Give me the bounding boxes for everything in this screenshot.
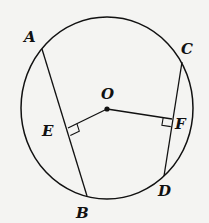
geometry-diagram: A B C D E F O — [0, 0, 209, 223]
segment-of — [107, 109, 172, 119]
label-b: B — [75, 204, 89, 222]
label-o: O — [101, 85, 114, 103]
label-d: D — [157, 182, 171, 200]
label-c: C — [181, 40, 193, 58]
segment-oe — [68, 109, 107, 128]
center-point-o — [104, 106, 109, 111]
label-e: E — [41, 122, 54, 140]
label-a: A — [22, 28, 36, 46]
label-f: F — [174, 115, 187, 133]
